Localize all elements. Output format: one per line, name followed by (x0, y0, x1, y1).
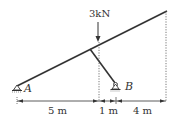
dimension-label-5m: 5 m (48, 106, 67, 116)
inclined-beam (17, 11, 167, 86)
diagram: 3kN A B 5 m 1 m 4 m (0, 0, 177, 122)
pin-support-b-icon (111, 83, 121, 92)
load-arrow-icon (96, 22, 101, 42)
strut (90, 49, 115, 83)
dimension-label-4m: 4 m (133, 106, 152, 116)
load-label: 3kN (89, 9, 110, 19)
dimension-label-1m: 1 m (99, 106, 118, 116)
dimension-line (17, 97, 166, 104)
support-a-label: A (24, 83, 32, 94)
pin-support-a-icon (12, 85, 22, 92)
support-b-label: B (125, 81, 133, 92)
